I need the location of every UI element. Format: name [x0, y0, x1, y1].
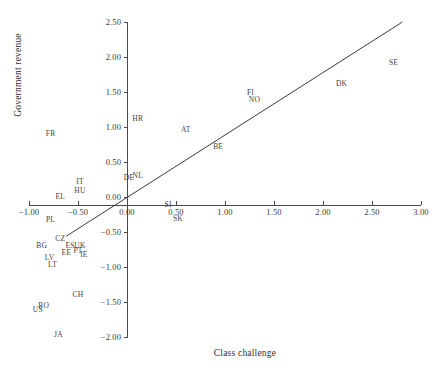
y-tick-mark: [124, 267, 128, 268]
data-point-label: EL: [56, 192, 66, 201]
data-point-label: SK: [173, 214, 183, 223]
data-point-label: DE: [124, 172, 134, 181]
y-tick-label: −2.00: [101, 332, 121, 342]
data-point-label: JA: [54, 329, 63, 338]
y-tick-mark: [124, 337, 128, 338]
y-tick-label: 1.50: [106, 87, 121, 97]
y-tick-mark: [124, 197, 128, 198]
y-tick-label: 0.00: [106, 192, 121, 202]
data-point-label: AT: [181, 125, 191, 134]
data-point-label: BG: [36, 240, 47, 249]
x-tick-mark: [127, 201, 128, 205]
y-tick-label: −1.50: [101, 297, 121, 307]
x-tick-mark: [372, 201, 373, 205]
data-point-label: DK: [336, 78, 347, 87]
y-tick-label: 2.00: [106, 52, 121, 62]
y-tick-mark: [124, 162, 128, 163]
data-point-label: IT: [76, 176, 83, 185]
data-point-label: HU: [74, 186, 85, 195]
x-tick-mark: [274, 201, 275, 205]
y-tick-label: 2.50: [106, 17, 121, 27]
y-tick-label: −0.50: [101, 227, 121, 237]
x-tick-label: −1.00: [19, 207, 39, 217]
data-point-label: BE: [213, 141, 223, 150]
y-tick-mark: [124, 92, 128, 93]
y-tick-label: 0.50: [106, 157, 121, 167]
data-point-label: EE: [61, 247, 71, 256]
y-tick-mark: [124, 127, 128, 128]
x-tick-label: 0.00: [119, 207, 134, 217]
data-point-label: SE: [389, 57, 398, 66]
scatter-plot-figure: −1.00−0.500.000.501.001.502.002.503.00 2…: [0, 0, 432, 377]
data-point-label: SI: [165, 200, 172, 209]
x-tick-mark: [29, 201, 30, 205]
trendline: [0, 0, 432, 377]
data-point-label: HR: [132, 113, 143, 122]
x-tick-mark: [225, 201, 226, 205]
x-tick-mark: [323, 201, 324, 205]
x-tick-label: 2.50: [364, 207, 379, 217]
x-tick-label: 2.00: [315, 207, 330, 217]
y-tick-mark: [124, 302, 128, 303]
data-point-label: US: [33, 305, 43, 314]
plot-area: −1.00−0.500.000.501.001.502.002.503.00 2…: [0, 0, 432, 377]
data-point-label: NO: [249, 95, 260, 104]
y-tick-label: −1.00: [101, 262, 121, 272]
data-point-label: PL: [46, 215, 55, 224]
x-tick-label: 1.50: [266, 207, 281, 217]
x-axis-title: Class challenge: [0, 348, 432, 358]
y-tick-mark: [124, 232, 128, 233]
x-tick-mark: [176, 201, 177, 205]
x-tick-mark: [421, 201, 422, 205]
x-tick-label: 3.00: [413, 207, 428, 217]
x-tick-mark: [78, 201, 79, 205]
x-tick-label: 1.00: [217, 207, 232, 217]
data-point-label: CH: [73, 289, 84, 298]
data-point-label: CZ: [55, 233, 65, 242]
x-axis-line: [29, 205, 421, 206]
x-tick-label: −0.50: [68, 207, 88, 217]
data-point-label: IE: [80, 250, 87, 259]
data-point-label: LT: [48, 259, 57, 268]
y-axis-title: Government revenue: [13, 0, 23, 155]
y-tick-mark: [124, 22, 128, 23]
x-axis-title-text: Class challenge: [156, 348, 276, 358]
y-tick-label: 1.00: [106, 122, 121, 132]
y-tick-mark: [124, 57, 128, 58]
data-point-label: FR: [46, 128, 56, 137]
